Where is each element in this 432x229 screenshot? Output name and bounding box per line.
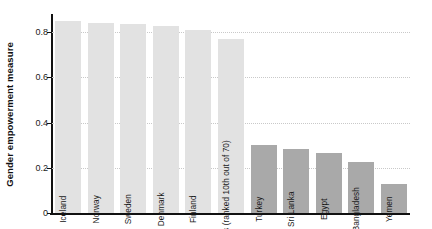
bar-category-label: Denmark [158, 192, 166, 226]
bar-category-label: Norway [93, 195, 101, 223]
y-axis-tick-label: 0.2 [20, 163, 48, 173]
bar-category-label: Egypt [320, 198, 328, 219]
bar-chart: Gender empowerment measure 00.20.40.60.8… [0, 0, 432, 229]
y-axis-tick-label: 0 [20, 208, 48, 218]
bar-category-label: Sri Lanka [288, 191, 296, 227]
y-axis-tick-label: 0.4 [20, 118, 48, 128]
bar-category-label: Iceland [60, 195, 68, 222]
bar-category-label: Turkey [255, 196, 263, 221]
y-axis-tick-mark [47, 168, 52, 169]
bar: Yemen [381, 184, 407, 213]
bar: Bangladesh [348, 162, 374, 213]
y-axis-tick-labels: 00.20.40.60.8 [16, 0, 48, 229]
bar-category-label: Sweden [125, 194, 133, 224]
bar-category-label: Bangladesh [353, 187, 361, 229]
bar: United States (ranked 10th out of 70) [218, 39, 244, 213]
y-axis-tick-mark [47, 77, 52, 78]
bar-category-label: United States (ranked 10th out of 70) [223, 140, 231, 229]
bar-category-label: Yemen [386, 196, 394, 222]
y-axis-tick-mark [47, 213, 52, 214]
y-axis-tick-label: 0.6 [20, 72, 48, 82]
bar: Norway [88, 23, 114, 213]
y-axis-tick-mark [47, 123, 52, 124]
bar: Iceland [55, 21, 81, 213]
bar: Sri Lanka [283, 149, 309, 213]
plot-area: IcelandNorwaySwedenDenmarkFinlandUnited … [52, 14, 410, 213]
bar: Turkey [251, 145, 277, 213]
y-axis-tick-mark [47, 32, 52, 33]
bar: Sweden [120, 24, 146, 213]
bar-category-label: Finland [190, 195, 198, 223]
y-axis-tick-label: 0.8 [20, 27, 48, 37]
bar: Denmark [153, 26, 179, 213]
bar: Egypt [316, 153, 342, 213]
y-axis-line [51, 14, 53, 213]
bar: Finland [185, 30, 211, 213]
